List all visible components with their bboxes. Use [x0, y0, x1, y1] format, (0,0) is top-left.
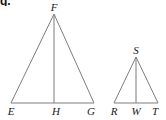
triangle-rst-group	[114, 57, 158, 103]
vertex-label-w: W	[131, 106, 140, 117]
triangles-drawing	[0, 0, 166, 120]
geometry-figure: g. F E H G S R W T	[0, 0, 166, 120]
vertex-label-e: E	[8, 106, 15, 117]
vertex-label-g: G	[87, 106, 95, 117]
triangle-efg-group	[11, 14, 94, 103]
vertex-label-t: T	[152, 106, 158, 117]
triangle-efg-outline	[11, 14, 94, 103]
vertex-label-r: R	[111, 106, 118, 117]
vertex-label-f: F	[51, 2, 58, 13]
vertex-label-s: S	[133, 45, 139, 56]
vertex-label-h: H	[52, 106, 60, 117]
